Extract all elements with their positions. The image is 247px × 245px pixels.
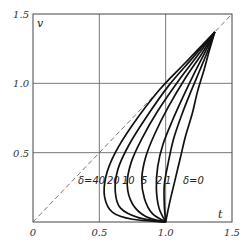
x-tick-label: 0	[30, 227, 37, 238]
y-tick-labels: 0.51.01.5	[13, 9, 30, 159]
curve-label: 2	[156, 175, 162, 186]
curve-label: δ=0	[183, 175, 204, 186]
x-tick-label: 1.5	[224, 227, 240, 238]
x-tick-label: 0.5	[91, 227, 107, 238]
curve-label: 20	[107, 175, 120, 186]
chart: 00.51.01.5 0.51.01.5 t v δ=402010521δ=0	[0, 0, 247, 245]
curve-label: 1	[165, 175, 171, 186]
x-tick-labels: 00.51.01.5	[30, 227, 240, 238]
curve-label: 10	[122, 175, 135, 186]
y-tick-label: 1.0	[13, 78, 30, 89]
x-tick-label: 1.0	[158, 227, 175, 238]
curve-group	[104, 32, 215, 222]
curve-labels: δ=402010521δ=0	[78, 175, 204, 186]
x-axis-label: t	[218, 208, 223, 221]
curve-label: δ=40	[78, 175, 105, 186]
y-tick-label: 1.5	[13, 9, 29, 20]
y-tick-label: 0.5	[13, 148, 29, 159]
curve-label: 5	[141, 175, 147, 186]
y-axis-label: v	[37, 17, 44, 30]
